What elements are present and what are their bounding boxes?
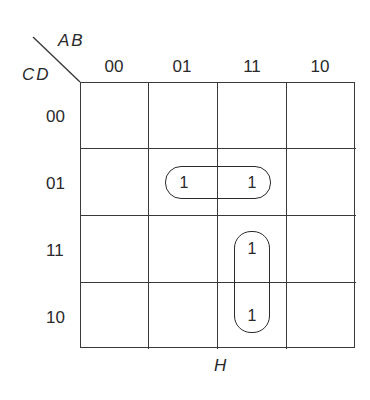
output-function-label: H (214, 357, 226, 374)
cell-r1-c0 (81, 149, 149, 216)
cell-r3-c0 (81, 283, 149, 349)
row-header-00: 00 (46, 108, 65, 125)
cell-r0-c2 (218, 83, 287, 149)
cell-r2-c0 (81, 216, 149, 283)
cell-r1-c3 (287, 149, 356, 216)
column-header-01: 01 (173, 58, 192, 75)
row-header-10: 10 (46, 309, 65, 326)
column-header-10: 10 (311, 58, 330, 75)
column-header-11: 11 (243, 58, 261, 75)
column-variables-label: AB (58, 32, 85, 49)
cell-value-r2-c2: 1 (248, 241, 257, 257)
cell-value-r1-c2: 1 (248, 175, 257, 191)
row-header-01: 01 (46, 175, 65, 192)
cell-r0-c1 (149, 83, 218, 149)
row-header-11: 11 (46, 242, 64, 259)
column-header-00: 00 (105, 58, 124, 75)
cell-r0-c0 (81, 83, 149, 149)
cell-value-r1-c1: 1 (180, 175, 189, 191)
karnaugh-map: AB CD 00 01 11 10 00 01 11 10 1 1 1 1 H (0, 0, 370, 400)
cell-r0-c3 (287, 83, 356, 149)
kmap-grid (80, 82, 355, 348)
cell-r2-c3 (287, 216, 356, 283)
cell-r2-c1 (149, 216, 218, 283)
cell-r3-c3 (287, 283, 356, 349)
row-variables-label: CD (22, 66, 51, 83)
cell-value-r3-c2: 1 (248, 308, 257, 324)
cell-r3-c1 (149, 283, 218, 349)
